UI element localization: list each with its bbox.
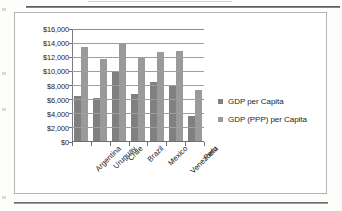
legend-item[interactable]: GDP (PPP) per Capita [218,115,326,124]
x-axis-category-label: Mexico [166,144,189,167]
legend-label: GDP (PPP) per Capita [228,115,307,124]
gridline [72,57,204,58]
x-axis-category-label: Brazil [146,144,166,164]
y-tick-mark [69,113,72,114]
y-tick-mark [69,127,72,128]
y-tick-mark [69,85,72,86]
page-rule-top [26,6,340,8]
y-tick-label: $12,000 [43,53,69,62]
x-axis-labels: ArgentinaUruguayChileBrazilMexicoVenezue… [55,144,230,192]
bar-gdp [188,116,195,141]
y-axis-labels: $0$2,000$4,000$6,000$8,000$10,000$12,000… [15,29,69,142]
legend-label: GDP per Capita [228,97,284,106]
y-tick-mark [69,43,72,44]
scan-artifact [2,72,6,75]
scan-artifact [2,108,6,111]
gridline [72,127,204,128]
chart-figure-frame: $0$2,000$4,000$6,000$8,000$10,000$12,000… [14,12,327,194]
scan-artifact [2,196,6,199]
page-rule-faint [88,1,232,2]
gridline [72,99,204,100]
gridline [72,85,204,86]
y-tick-mark [69,29,72,30]
bar-gdp [131,94,138,141]
bar-gdp-ppp [195,90,202,141]
y-tick-label: $16,000 [43,25,69,34]
y-tick-label: $2,000 [47,123,69,132]
bar-gdp [74,96,81,142]
legend-swatch-icon [218,117,223,122]
legend-swatch-icon [218,99,223,104]
y-tick-mark [69,71,72,72]
legend-item[interactable]: GDP per Capita [218,97,326,106]
bar-gdp [150,82,157,141]
y-tick-mark [69,99,72,100]
gridline [72,29,204,30]
bar-gdp [112,72,119,141]
gridline [72,43,204,44]
y-tick-label: $6,000 [47,95,69,104]
gridline [72,71,204,72]
page-rule-bottom [14,202,328,204]
y-tick-label: $8,000 [47,81,69,90]
gridline [72,113,204,114]
y-tick-label: $10,000 [43,67,69,76]
y-tick-mark [69,57,72,58]
chart-legend: GDP per CapitaGDP (PPP) per Capita [218,97,326,133]
bar-chart: $0$2,000$4,000$6,000$8,000$10,000$12,000… [15,13,328,195]
bar-gdp [93,98,100,141]
plot-area [72,29,204,142]
scan-artifact [2,8,6,11]
y-tick-label: $4,000 [47,109,69,118]
y-tick-label: $14,000 [43,39,69,48]
